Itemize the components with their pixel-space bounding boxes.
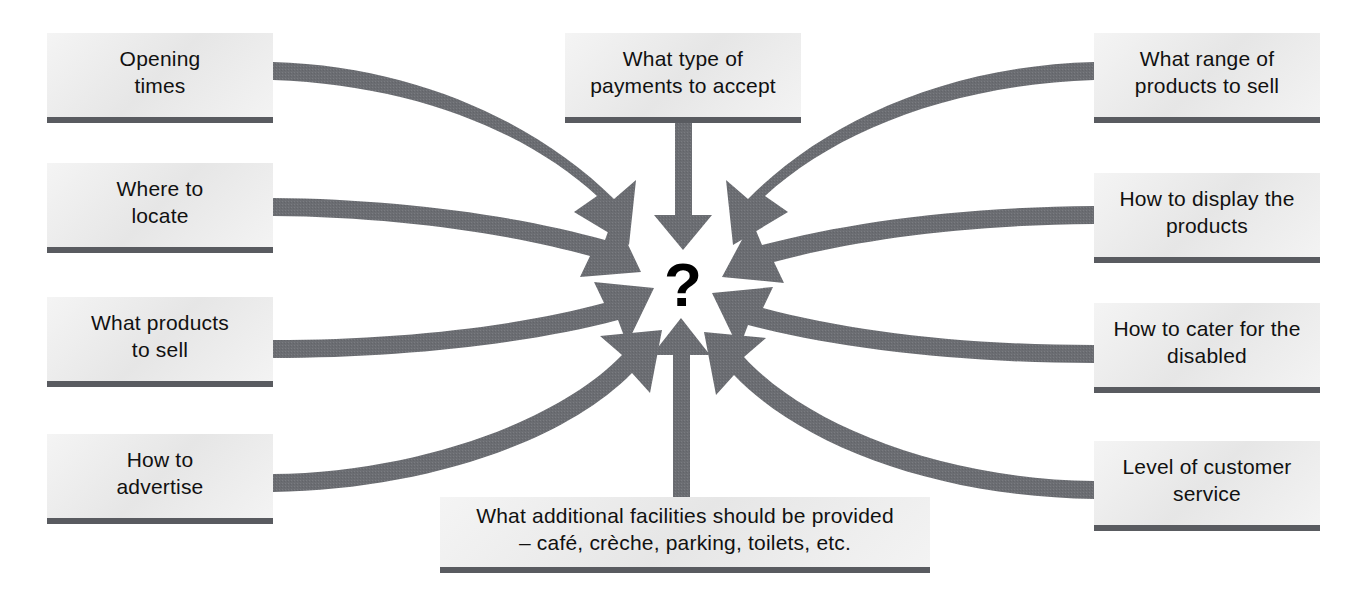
arrow-cater-disabled	[712, 287, 1094, 363]
node-how-to-display-the-products[interactable]: How to display the products	[1094, 173, 1320, 263]
node-level-of-customer-service[interactable]: Level of customer service	[1094, 441, 1320, 531]
arrow-payments	[654, 123, 712, 250]
node-how-to-cater-for-the-disabled[interactable]: How to cater for the disabled	[1094, 303, 1320, 393]
arrow-what-products-to-sell	[273, 282, 654, 358]
node-label: What additional facilities should be pro…	[476, 503, 894, 557]
node-what-range-of-products-to-sell[interactable]: What range of products to sell	[1094, 33, 1320, 123]
node-label: Level of customer service	[1122, 454, 1291, 508]
node-label: What products to sell	[91, 310, 229, 364]
arrow-additional-facilities	[652, 318, 710, 497]
node-label: How to advertise	[116, 447, 203, 501]
node-what-additional-facilities[interactable]: What additional facilities should be pro…	[440, 497, 930, 573]
node-what-products-to-sell[interactable]: What products to sell	[47, 297, 273, 387]
node-label: How to display the products	[1119, 186, 1294, 240]
node-what-type-of-payments-to-accept[interactable]: What type of payments to accept	[565, 33, 801, 123]
node-opening-times[interactable]: Opening times	[47, 33, 273, 123]
node-where-to-locate[interactable]: Where to locate	[47, 163, 273, 253]
diagram-canvas: Opening times Where to locate What produ…	[0, 0, 1361, 595]
node-label: What type of payments to accept	[590, 46, 776, 100]
center-question-mark: ?	[664, 254, 702, 316]
node-label: Opening times	[120, 46, 201, 100]
node-label: What range of products to sell	[1135, 46, 1279, 100]
node-how-to-advertise[interactable]: How to advertise	[47, 434, 273, 524]
node-label: How to cater for the disabled	[1113, 316, 1300, 370]
node-label: Where to locate	[117, 176, 204, 230]
